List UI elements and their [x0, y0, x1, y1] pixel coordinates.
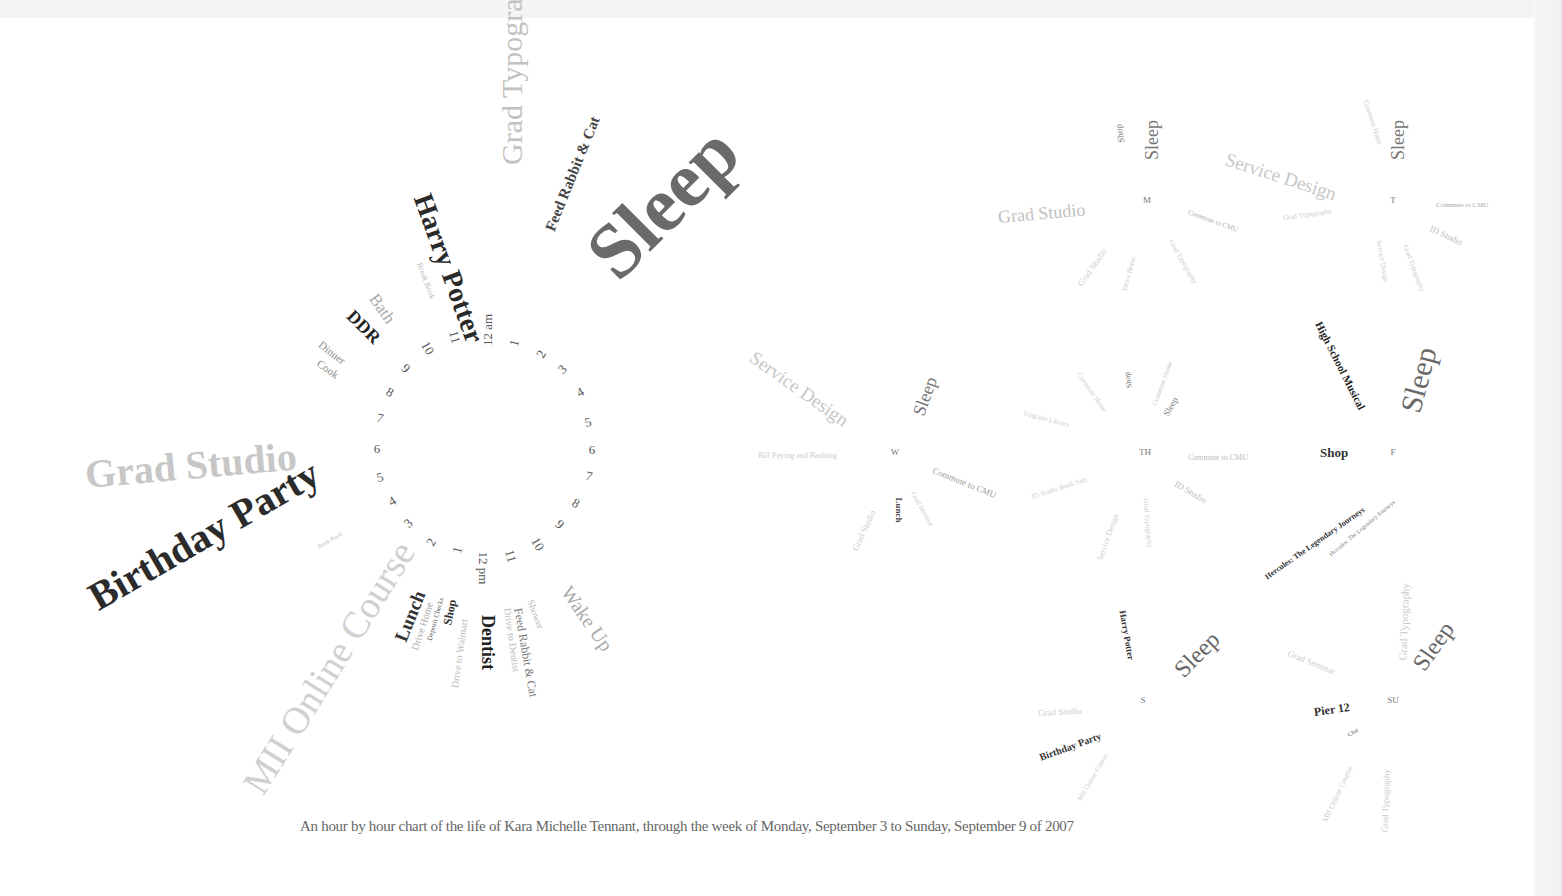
activity-label: Drive Home [1122, 255, 1138, 290]
activity-label: Service Design [1375, 239, 1389, 282]
activity-label: Book Book [317, 531, 344, 550]
clock-hour-label: 10 [529, 535, 547, 553]
activity-label: Commute to CMU [931, 466, 997, 500]
activity-label: Hercules: The Legendary Journeys [1264, 506, 1367, 581]
activity-label: Shop [441, 598, 458, 626]
activity-label: Sleep [1396, 344, 1442, 416]
activity-label: Grad Typography [1142, 498, 1153, 548]
activity-label: Commute Home [1362, 99, 1383, 145]
activity-label: Chat [1347, 727, 1360, 738]
chart-caption: An hour by hour chart of the life of Kar… [300, 818, 1074, 835]
clock-hour-label: 9 [553, 517, 567, 531]
activity-label: ID Studio [1428, 224, 1464, 247]
clock-hour-label: 5 [583, 415, 593, 429]
activity-label: Sleep [572, 112, 753, 293]
clock-hour-label: 8 [570, 496, 582, 511]
activity-label: Grad Studio [997, 200, 1086, 226]
activity-label: MII Online Course [1321, 765, 1354, 824]
clock-hour-label: 4 [574, 385, 586, 400]
chart-stage: 12 am123456789101112 pm1234567891011 Sle… [0, 0, 1562, 896]
activity-label: Service Design [1096, 513, 1120, 561]
clock-hour-label: 1 [450, 545, 464, 555]
activity-label: Shop [1123, 371, 1134, 389]
activity-label: MII Online Course [236, 535, 421, 800]
activity-label: Sleep [1170, 627, 1225, 682]
activity-label: Grad Seminar [909, 490, 935, 527]
clock-hour-label: 6 [374, 442, 381, 455]
activity-label: ID Studio [1173, 479, 1208, 504]
activity-label: Commute Home [1075, 371, 1107, 413]
activity-label: Grad Typography [1402, 244, 1425, 293]
activity-label: Sleep [1143, 120, 1161, 160]
activity-label: High School Musical [1313, 320, 1367, 412]
activity-label: MII Online Course [1077, 752, 1110, 802]
activity-label: Grad Seminar [1286, 649, 1336, 676]
activity-label: Sleep [1389, 120, 1407, 160]
clock-hour-label: 7 [584, 469, 594, 483]
activity-label: Service Design [1223, 149, 1339, 203]
activity-label: Dentist [479, 615, 497, 670]
day-letter: T [1390, 195, 1396, 205]
clock-hour-label: 9 [399, 361, 413, 375]
activity-label: Grad Typography [1167, 238, 1198, 284]
day-letter: S [1140, 695, 1145, 705]
clock-hour-label: 12 pm [477, 552, 490, 585]
activity-label: Lunch [894, 497, 903, 522]
activity-label: Grad Studio [1038, 706, 1082, 717]
clock-hour-label: 8 [384, 385, 396, 400]
day-letter: W [891, 447, 900, 457]
activity-label: Commute to CMU [1188, 454, 1248, 462]
activity-label: Grad Studio [851, 508, 878, 551]
activity-label: Shop [1320, 446, 1348, 459]
activity-label: Grad Studio [1076, 247, 1108, 288]
activity-label: Sleep [1408, 617, 1458, 674]
activity-label: ID Studio Book Sale [1031, 476, 1088, 501]
activity-label: Service Design [747, 347, 853, 429]
day-letter: F [1390, 447, 1395, 457]
activity-label: Grad Typography [497, 0, 527, 165]
activity-label: Grad Typography [1381, 768, 1392, 832]
day-letter: M [1143, 195, 1151, 205]
activity-label: Pier 12 [1313, 701, 1350, 718]
activity-label: Commute to CMU [1436, 202, 1489, 209]
clock-hour-label: 3 [401, 516, 415, 530]
activity-label: Drive to Walmart [450, 618, 470, 688]
activity-label: Shop [1114, 123, 1126, 143]
clock-hour-label: 11 [503, 548, 519, 563]
clock-hour-label: 2 [534, 348, 549, 360]
activity-label: Bill Paying and Banking [758, 452, 837, 460]
activity-label: Birthday Party [1038, 731, 1102, 763]
clock-hour-label: 3 [555, 362, 569, 376]
clock-hour-label: 2 [424, 536, 439, 548]
activity-label: Sleep [1162, 395, 1180, 417]
day-letter: TH [1139, 447, 1151, 457]
activity-label: Grad Typography [1283, 208, 1333, 222]
activity-label: Harry Potter [1118, 609, 1136, 660]
clock-hour-label: 5 [375, 470, 385, 484]
activity-label: Wake Up [558, 582, 617, 654]
clock-hour-label: 6 [589, 443, 596, 456]
activity-label: Grad Typography [1398, 582, 1412, 660]
clock-hour-label: 7 [375, 411, 385, 425]
activity-label: Sleep [910, 374, 941, 418]
clock-hour-label: 4 [386, 494, 398, 509]
clock-hour-label: 10 [419, 339, 437, 357]
activity-label: Commute to CMU [1187, 209, 1239, 234]
clock-hour-label: 1 [507, 338, 521, 348]
activity-label: Upgrade Library [1023, 410, 1070, 429]
day-letter: SU [1387, 695, 1399, 705]
